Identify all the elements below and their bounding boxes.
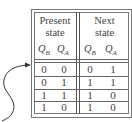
next-state-line2: state (80, 27, 129, 39)
cell: 0 (107, 90, 119, 101)
next-state-line1: Next (80, 15, 129, 27)
cell: 0 (58, 64, 70, 75)
col-header-present-qa: QA (57, 43, 69, 57)
cell: 1 (107, 77, 119, 88)
curved-arrow-icon (0, 0, 40, 122)
cell: 0 (107, 102, 119, 113)
cell: 1 (84, 90, 96, 101)
cell: 1 (84, 102, 96, 113)
present-state-header: Present state (34, 15, 76, 39)
col-header-next-qb: QB (84, 43, 96, 57)
cell: 1 (58, 90, 70, 101)
group-divider-left (76, 12, 77, 114)
cell: 0 (58, 102, 70, 113)
cell: 1 (107, 64, 119, 75)
cell: 1 (58, 77, 70, 88)
cell: 0 (84, 64, 96, 75)
cell: 1 (84, 77, 96, 88)
header-separator-top (34, 59, 129, 60)
next-state-header: Next state (80, 15, 129, 39)
col-header-next-qa: QA (105, 43, 117, 57)
present-state-line1: Present (34, 15, 76, 27)
present-state-line2: state (34, 27, 76, 39)
